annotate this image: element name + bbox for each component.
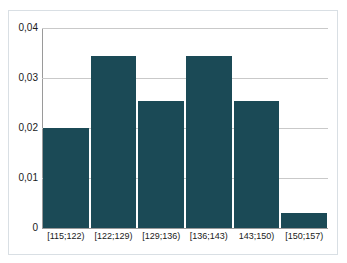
bar-slot bbox=[42, 28, 90, 228]
bar-122-129[interactable] bbox=[91, 56, 137, 229]
axis-zero-line bbox=[42, 228, 328, 229]
bar-slot bbox=[233, 28, 281, 228]
bar-slot bbox=[185, 28, 233, 228]
x-tick-label-129-136: [129;136) bbox=[137, 231, 185, 242]
bar-136-143[interactable] bbox=[186, 56, 232, 229]
bar-series bbox=[42, 28, 328, 228]
x-tick-label-122-129: [122;129) bbox=[90, 231, 138, 242]
bar-slot bbox=[90, 28, 138, 228]
x-tick-label-143-150: 143;150) bbox=[233, 231, 281, 242]
y-tick-label-0.02: 0,02 bbox=[19, 123, 38, 133]
bar-115-122[interactable] bbox=[43, 128, 89, 228]
bar-150-157[interactable] bbox=[281, 213, 327, 228]
y-tick-label-0.01: 0,01 bbox=[19, 173, 38, 183]
bar-slot bbox=[280, 28, 328, 228]
x-tick-label-150-157: [150;157) bbox=[280, 231, 328, 242]
chart-card: 0,04 0,03 0,02 0,01 0 bbox=[8, 10, 338, 255]
x-axis: [115;122) [122;129) [129;136) [136;143) … bbox=[42, 231, 328, 242]
y-axis: 0,04 0,03 0,02 0,01 0 bbox=[9, 11, 38, 256]
x-tick-label-115-122: [115;122) bbox=[42, 231, 90, 242]
plot-area bbox=[42, 28, 328, 228]
y-tick-label-0.03: 0,03 bbox=[19, 73, 38, 83]
x-tick-label-136-143: [136;143) bbox=[185, 231, 233, 242]
bar-129-136[interactable] bbox=[138, 101, 184, 229]
y-tick-label-0.04: 0,04 bbox=[19, 23, 38, 33]
bar-143-150[interactable] bbox=[234, 101, 280, 229]
y-tick-label-0: 0 bbox=[32, 223, 38, 233]
bar-slot bbox=[137, 28, 185, 228]
